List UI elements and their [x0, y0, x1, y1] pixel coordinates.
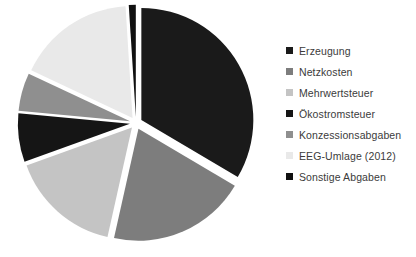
legend-item[interactable]: EEG-Umlage (2012) — [272, 145, 416, 166]
legend-item-label: Konzessionsabgaben — [299, 129, 401, 141]
legend-swatch-icon — [286, 152, 293, 159]
legend-item-label: Ökostromsteuer — [299, 108, 375, 120]
legend-swatch-icon — [286, 89, 293, 96]
legend-item-label: EEG-Umlage (2012) — [299, 150, 396, 162]
legend-swatch-icon — [286, 173, 293, 180]
legend-swatch-icon — [286, 110, 293, 117]
legend-swatch-icon — [286, 131, 293, 138]
pie-plot-area — [0, 0, 272, 257]
legend-item[interactable]: Sonstige Abgaben — [272, 166, 416, 187]
legend-swatch-icon — [286, 47, 293, 54]
pie-chart-figure: ErzeugungNetzkostenMehrwertsteuerÖkostro… — [0, 0, 416, 257]
legend-item-label: Erzeugung — [299, 45, 351, 57]
legend-item[interactable]: Ökostromsteuer — [272, 103, 416, 124]
legend-item-label: Netzkosten — [299, 66, 353, 78]
chart-legend: ErzeugungNetzkostenMehrwertsteuerÖkostro… — [272, 0, 416, 257]
legend-item-label: Sonstige Abgaben — [299, 171, 386, 183]
legend-item[interactable]: Netzkosten — [272, 61, 416, 82]
legend-item-label: Mehrwertsteuer — [299, 87, 373, 99]
legend-item[interactable]: Konzessionsabgaben — [272, 124, 416, 145]
legend-swatch-icon — [286, 68, 293, 75]
pie-chart-svg — [0, 0, 272, 257]
legend-item[interactable]: Erzeugung — [272, 40, 416, 61]
legend-item[interactable]: Mehrwertsteuer — [272, 82, 416, 103]
